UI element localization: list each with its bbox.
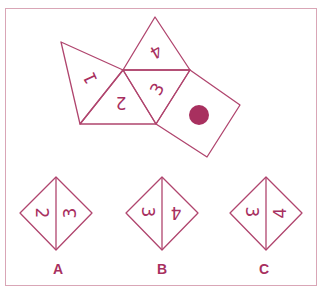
cube-net: 1 2 3 4 xyxy=(61,17,240,157)
option-b-letter: B xyxy=(157,261,167,277)
option-b[interactable]: 3 4 B xyxy=(126,177,198,277)
puzzle-figure: 1 2 3 4 2 3 A 3 4 B 3 4 C xyxy=(0,0,318,290)
option-a[interactable]: 2 3 A xyxy=(20,177,92,277)
option-a-left-label: 2 xyxy=(32,208,52,219)
dot-mark xyxy=(189,105,209,125)
face-1-label: 1 xyxy=(79,69,102,87)
option-c-letter: C xyxy=(259,261,269,277)
option-b-left-label: 3 xyxy=(138,207,158,218)
face-3-label: 3 xyxy=(146,79,169,98)
option-a-letter: A xyxy=(53,261,63,277)
face-3 xyxy=(123,70,190,124)
option-b-right-label: 4 xyxy=(171,203,182,223)
option-c-right-label: 4 xyxy=(270,208,290,219)
option-a-right-label: 3 xyxy=(60,208,80,219)
face-2-label: 2 xyxy=(116,93,127,113)
face-4-label: 4 xyxy=(146,41,165,64)
option-c-left-label: 3 xyxy=(242,207,262,218)
option-c[interactable]: 3 4 C xyxy=(230,177,302,277)
